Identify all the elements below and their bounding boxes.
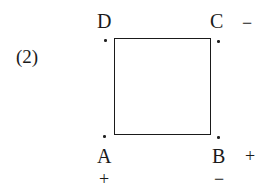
vertex-label-a: A <box>97 146 111 166</box>
sign-a: + <box>99 170 109 188</box>
vertex-dot-a <box>103 135 106 138</box>
sign-b-below: − <box>214 170 224 188</box>
vertex-label-c: C <box>210 11 223 31</box>
square-shape <box>114 38 211 135</box>
vertex-dot-d <box>104 39 107 42</box>
vertex-label-d: D <box>97 11 111 31</box>
vertex-label-b: B <box>212 146 225 166</box>
sign-b-right: + <box>245 147 255 165</box>
figure-number: (2) <box>16 47 38 67</box>
sign-c: − <box>242 14 252 32</box>
vertex-dot-b <box>217 136 220 139</box>
vertex-dot-c <box>217 40 220 43</box>
